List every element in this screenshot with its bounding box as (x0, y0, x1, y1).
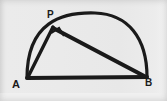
vertex-label-a: A (12, 79, 20, 90)
vertex-label-b: B (145, 78, 152, 88)
semicircle-diagram (0, 0, 167, 101)
vertex-label-p: P (47, 10, 54, 20)
segment-chord-pb (53, 28, 146, 77)
segment-diameter-ab (27, 77, 147, 78)
geometry-figure: A B P (0, 0, 167, 101)
